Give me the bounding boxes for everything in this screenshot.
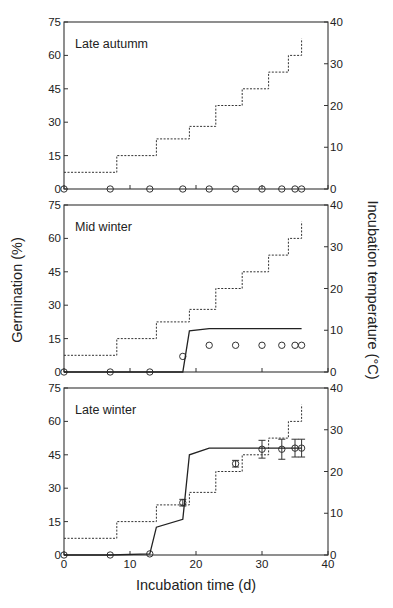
y-tick-label: 15 <box>48 150 61 162</box>
x-tick-label: 30 <box>256 558 269 570</box>
y2-tick-label: 20 <box>330 466 343 478</box>
observed-point-marker <box>298 342 304 348</box>
panel-label: Mid winter <box>75 220 132 234</box>
germination-figure: 01530456075010203040Late autumm015304560… <box>0 0 393 608</box>
y2-tick-label: 20 <box>330 100 343 112</box>
y-left-axis-title: Germination (%) <box>9 237 25 343</box>
panel-mid-winter: 01530456075010203040Mid winter <box>48 199 343 378</box>
observed-point-marker <box>292 342 298 348</box>
model-germination-line <box>64 329 302 372</box>
y2-tick-label: 20 <box>330 283 343 295</box>
x-tick-label: 10 <box>124 558 137 570</box>
y-right-axis-title: Incubation temperature (°C) <box>365 200 381 379</box>
y-tick-label: 60 <box>48 232 61 244</box>
y-tick-label: 45 <box>48 266 61 278</box>
y2-tick-label: 30 <box>330 58 343 70</box>
y2-tick-label: 0 <box>330 366 336 378</box>
y-tick-label: 45 <box>48 83 61 95</box>
y-tick-label: 45 <box>48 449 61 461</box>
y2-tick-label: 40 <box>330 382 343 394</box>
y-tick-label: 60 <box>48 415 61 427</box>
y2-tick-label: 40 <box>330 16 343 28</box>
y-tick-label: 30 <box>48 482 61 494</box>
panel-late-autumm: 01530456075010203040Late autumm <box>48 16 343 195</box>
panel-late-winter: 01530456075010203040010203040Late winter <box>48 382 343 570</box>
y-tick-label: 75 <box>48 16 61 28</box>
y2-tick-label: 0 <box>330 183 336 195</box>
x-tick-label: 0 <box>61 558 67 570</box>
temperature-step-line <box>64 222 302 356</box>
x-axis-title: Incubation time (d) <box>136 577 256 593</box>
y2-tick-label: 10 <box>330 141 343 153</box>
observed-point-marker <box>279 342 285 348</box>
y-tick-label: 75 <box>48 382 61 394</box>
x-tick-label: 20 <box>190 558 203 570</box>
panel-label: Late autumm <box>75 37 148 51</box>
observed-point-marker <box>259 342 265 348</box>
y2-tick-label: 30 <box>330 241 343 253</box>
y-tick-label: 15 <box>48 333 61 345</box>
y2-tick-label: 30 <box>330 424 343 436</box>
y-tick-label: 15 <box>48 516 61 528</box>
observed-point-marker <box>206 342 212 348</box>
y-tick-label: 30 <box>48 299 61 311</box>
temperature-step-line <box>64 39 302 173</box>
y2-tick-label: 40 <box>330 199 343 211</box>
x-tick-label: 40 <box>322 558 335 570</box>
y-tick-label: 0 <box>55 183 61 195</box>
panel-label: Late winter <box>75 403 136 417</box>
y2-tick-label: 10 <box>330 507 343 519</box>
y-tick-label: 60 <box>48 49 61 61</box>
observed-point-marker <box>232 342 238 348</box>
y-tick-label: 0 <box>55 366 61 378</box>
y2-tick-label: 10 <box>330 324 343 336</box>
y-tick-label: 75 <box>48 199 61 211</box>
y-tick-label: 30 <box>48 116 61 128</box>
